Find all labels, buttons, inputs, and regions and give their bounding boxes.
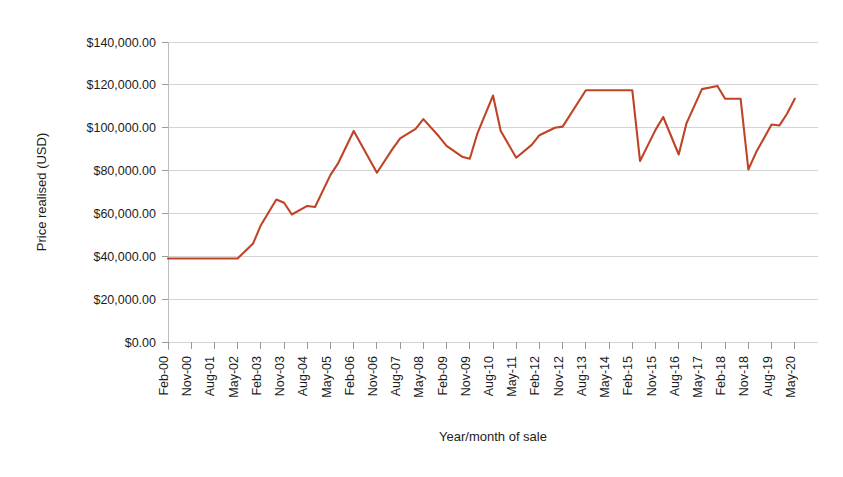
x-tick-label: May-05 [320, 356, 334, 398]
x-tick-label: Nov-00 [180, 356, 194, 396]
x-tick-label: May-20 [784, 356, 798, 398]
x-tick-label: Aug-13 [575, 356, 589, 396]
y-tick-label: $100,000.00 [86, 121, 156, 135]
x-tick-labels-group: Feb-00Nov-00Aug-01May-02Feb-03Nov-03Aug-… [157, 356, 798, 398]
y-tick-label: $120,000.00 [86, 78, 156, 92]
x-tick-label: Nov-06 [366, 356, 380, 396]
data-line-price-realised [168, 86, 795, 259]
y-tick-label: $0.00 [125, 336, 156, 350]
x-tick-label: Nov-18 [737, 356, 751, 396]
y-tick-label: $40,000.00 [93, 250, 156, 264]
y-tick-label: $60,000.00 [93, 207, 156, 221]
chart-container: $0.00$20,000.00$40,000.00$60,000.00$80,0… [0, 0, 843, 477]
x-tick-label: Feb-12 [528, 356, 542, 396]
y-axis-title: Price realised (USD) [34, 133, 49, 251]
x-tick-label: Feb-06 [343, 356, 357, 396]
y-axis-group [162, 42, 168, 350]
x-tick-label: Nov-03 [273, 356, 287, 396]
price-realised-line-chart: $0.00$20,000.00$40,000.00$60,000.00$80,0… [0, 0, 843, 477]
x-tick-label: Feb-15 [621, 356, 635, 396]
x-tick-label: May-11 [505, 356, 519, 397]
y-tick-label: $80,000.00 [93, 164, 156, 178]
data-series-group [168, 86, 795, 259]
gridlines-group [168, 42, 818, 342]
y-tick-label: $140,000.00 [86, 36, 156, 50]
x-tick-label: May-14 [598, 356, 612, 398]
y-tick-label: $20,000.00 [93, 293, 156, 307]
x-tick-label: Feb-03 [250, 356, 264, 396]
x-tick-label: May-17 [691, 356, 705, 398]
x-tick-label: Nov-09 [459, 356, 473, 396]
x-axis-group [168, 342, 795, 349]
x-tick-label: Aug-07 [389, 356, 403, 396]
x-tick-label: Aug-04 [296, 356, 310, 396]
y-tick-labels-group: $0.00$20,000.00$40,000.00$60,000.00$80,0… [86, 36, 156, 350]
x-tick-label: Aug-16 [668, 356, 682, 396]
x-tick-label: Feb-09 [436, 356, 450, 396]
x-tick-label: Feb-00 [157, 356, 171, 396]
x-tick-label: May-02 [227, 356, 241, 398]
x-tick-label: Aug-10 [482, 356, 496, 396]
x-tick-label: Aug-01 [203, 356, 217, 396]
x-tick-label: Aug-19 [761, 356, 775, 396]
x-axis-title: Year/month of sale [439, 429, 547, 444]
x-tick-label: Nov-15 [645, 356, 659, 396]
x-tick-label: May-08 [412, 356, 426, 398]
x-tick-label: Nov-12 [552, 356, 566, 396]
x-tick-label: Feb-18 [714, 356, 728, 396]
